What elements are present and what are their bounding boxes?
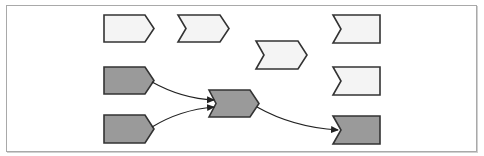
process-node-n7[interactable] <box>104 115 154 143</box>
process-node-n6[interactable] <box>104 67 154 94</box>
edge-n7-n8 <box>152 107 214 127</box>
process-node-n3[interactable] <box>256 41 307 69</box>
process-node-n9[interactable] <box>333 116 380 144</box>
flow-diagram <box>0 0 484 156</box>
process-node-n1[interactable] <box>104 15 154 42</box>
edge-n8-n9 <box>257 107 338 130</box>
process-node-n4[interactable] <box>333 15 380 43</box>
edge-n6-n8 <box>152 82 214 100</box>
process-node-n5[interactable] <box>333 67 380 95</box>
process-node-n8[interactable] <box>209 90 259 117</box>
process-node-n2[interactable] <box>178 15 229 42</box>
